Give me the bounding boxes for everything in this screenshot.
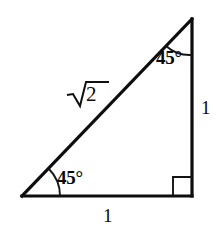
- angle-label-top-right: 45°: [156, 48, 182, 67]
- side-label-horizontal-leg: 1: [103, 206, 113, 225]
- angle-label-bottom-left: 45°: [57, 168, 83, 187]
- hypotenuse-radicand: 2: [86, 82, 97, 107]
- hypotenuse-label: 2: [66, 77, 110, 109]
- side-label-vertical-leg: 1: [201, 98, 211, 117]
- triangle-svg: [0, 0, 218, 234]
- right-angle-marker: [173, 177, 192, 196]
- triangle-figure: 2 45° 45° 1 1: [0, 0, 218, 234]
